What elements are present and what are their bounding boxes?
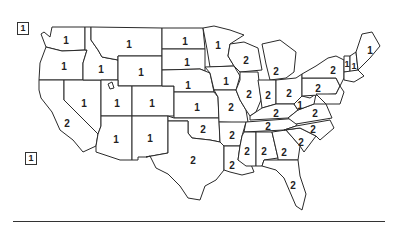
label-washington: 1 xyxy=(63,35,69,46)
label-north-carolina: 2 xyxy=(310,124,316,135)
label-missouri: 2 xyxy=(228,102,234,113)
label-utah: 1 xyxy=(114,98,120,109)
label-illinois: 2 xyxy=(246,89,252,100)
label-south-dakota: 1 xyxy=(184,57,190,68)
label-minnesota: 1 xyxy=(215,40,221,51)
us-map: 1 1 2 1 1 1 1 1 1 1 1 1 1 1 1 2 2 1 1 2 … xyxy=(0,0,398,232)
label-vermont: 1 xyxy=(344,59,349,69)
label-montana: 1 xyxy=(126,39,132,50)
label-michigan: 2 xyxy=(273,66,279,77)
label-wisconsin: 2 xyxy=(243,55,249,66)
label-new-mexico: 1 xyxy=(147,133,153,144)
label-virginia: 2 xyxy=(312,108,318,119)
label-louisiana: 2 xyxy=(229,160,235,171)
label-kansas: 1 xyxy=(194,102,200,113)
label-kentucky: 2 xyxy=(273,108,279,119)
label-arizona: 1 xyxy=(113,134,119,145)
label-california: 2 xyxy=(64,118,70,129)
label-ohio: 2 xyxy=(286,88,292,99)
hawaii-inset-label: 1 xyxy=(25,152,37,165)
label-south-carolina: 2 xyxy=(298,137,304,148)
label-west-virginia: 1 xyxy=(297,100,303,111)
label-alabama: 2 xyxy=(261,146,267,157)
label-maine: 1 xyxy=(367,45,373,56)
label-nevada: 1 xyxy=(81,98,87,109)
label-iowa: 1 xyxy=(223,76,229,87)
bottom-rule xyxy=(13,221,385,222)
label-new-york: 2 xyxy=(330,65,336,76)
label-arkansas: 2 xyxy=(229,130,235,141)
state-florida[interactable] xyxy=(262,160,306,210)
label-oklahoma: 2 xyxy=(200,124,206,135)
label-indiana: 2 xyxy=(265,90,271,101)
label-oregon: 1 xyxy=(61,61,67,72)
label-pennsylvania: 2 xyxy=(315,83,321,94)
label-colorado: 1 xyxy=(149,98,155,109)
label-new-hampshire: 1 xyxy=(351,61,356,71)
label-georgia: 2 xyxy=(281,147,287,158)
alaska-inset-label: 1 xyxy=(17,22,29,35)
state-southern-new-england[interactable] xyxy=(344,70,364,82)
label-nebraska: 1 xyxy=(185,80,191,91)
state-michigan[interactable] xyxy=(262,40,296,80)
label-wyoming: 1 xyxy=(138,67,144,78)
label-tennessee: 2 xyxy=(265,121,271,132)
label-texas: 2 xyxy=(190,155,196,166)
label-mississippi: 2 xyxy=(244,146,250,157)
label-florida: 2 xyxy=(290,180,296,191)
state-pennsylvania[interactable] xyxy=(302,78,340,96)
label-idaho: 1 xyxy=(98,64,104,75)
label-north-dakota: 1 xyxy=(182,36,188,47)
